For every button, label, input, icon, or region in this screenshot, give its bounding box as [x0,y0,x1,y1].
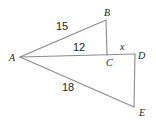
segment-ae [20,57,134,107]
vertex-label-b: B [104,8,110,18]
geometry-lines [0,0,156,125]
measure-label-ac: 12 [73,42,85,53]
vertex-label-a: A [9,53,15,63]
segment-bc [106,20,107,55]
measure-label-ae: 18 [62,82,74,93]
measure-label-ab: 15 [56,21,68,32]
measure-label-cd: x [120,42,124,52]
vertex-label-d: D [138,51,145,61]
segment-de [134,54,135,107]
geometry-figure: A B C D E 15 12 18 x [0,0,156,125]
segment-ad [20,54,135,57]
vertex-label-c: C [106,58,113,68]
vertex-label-e: E [139,108,145,118]
